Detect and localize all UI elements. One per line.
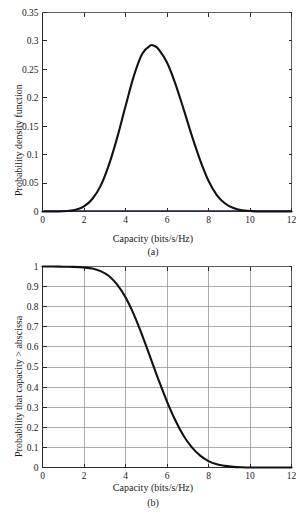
x-tick-label: 0 [40, 471, 45, 481]
panel-a-plot: 00.050.10.150.20.250.30.35024681012 [0, 0, 306, 261]
y-tick-label: 0.35 [22, 8, 39, 18]
x-tick-label: 12 [287, 215, 297, 225]
y-tick-label: 0.2 [27, 423, 39, 433]
y-tick-label: 0.15 [22, 122, 39, 132]
x-tick-label: 2 [82, 471, 87, 481]
y-tick-label: 0.9 [27, 282, 39, 292]
plot-frame [43, 13, 292, 212]
y-tick-label: 0.3 [27, 36, 39, 46]
y-tick-label: 1 [34, 262, 39, 272]
y-tick-label: 0.6 [27, 342, 39, 352]
y-tick-label: 0.8 [27, 302, 39, 312]
x-tick-label: 4 [123, 471, 128, 481]
y-tick-label: 0.2 [27, 93, 39, 103]
x-tick-label: 4 [123, 215, 128, 225]
x-tick-label: 8 [206, 215, 211, 225]
x-tick-label: 8 [206, 471, 211, 481]
y-tick-label: 0 [34, 463, 39, 473]
panel-b-subcaption: (b) [0, 497, 306, 508]
y-tick-label: 0.25 [22, 65, 39, 75]
capacity-distribution-figure: 00.050.10.150.20.250.30.35024681012 Capa… [0, 0, 306, 522]
panel-a-y-axis-label: Probability density function [13, 84, 24, 196]
y-tick-label: 0.3 [27, 403, 39, 413]
y-tick-label: 0.7 [27, 322, 39, 332]
panel-b-y-axis-label: Probability that capacity > abscissa [13, 316, 24, 457]
y-tick-label: 0.5 [27, 362, 39, 372]
chart-panel-a: 00.050.10.150.20.250.30.35024681012 Capa… [0, 0, 306, 261]
panel-a-subcaption: (a) [0, 246, 306, 257]
y-tick-label: 0.4 [27, 383, 39, 393]
x-tick-label: 10 [245, 471, 255, 481]
x-tick-label: 10 [245, 215, 255, 225]
panel-a-x-axis-label: Capacity (bits/s/Hz) [0, 233, 306, 244]
x-tick-label: 6 [165, 215, 170, 225]
x-tick-label: 12 [287, 471, 297, 481]
x-tick-label: 2 [82, 215, 87, 225]
y-tick-label: 0.1 [27, 443, 39, 453]
y-tick-label: 0.1 [27, 150, 39, 160]
data-curve [43, 45, 292, 212]
y-tick-label: 0 [34, 207, 39, 217]
panel-b-x-axis-label: Capacity (bits/s/Hz) [0, 482, 306, 493]
x-tick-label: 6 [165, 471, 170, 481]
x-tick-label: 0 [40, 215, 45, 225]
y-tick-label: 0.05 [22, 178, 39, 188]
